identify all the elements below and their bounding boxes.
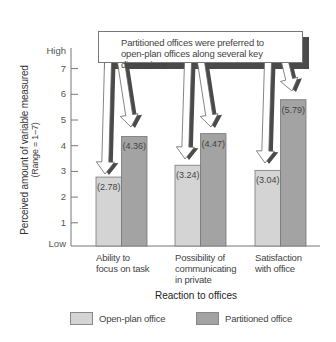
y-tick-label: 2 — [36, 191, 66, 202]
y-tick-label: 3 — [36, 165, 66, 176]
legend-item-open-plan: Open-plan office — [70, 312, 165, 325]
x-category-label: Satisfaction with office — [255, 252, 302, 274]
y-tick-label: Low — [36, 238, 66, 249]
bar-partitioned — [281, 100, 307, 246]
bar-partitioned — [201, 134, 227, 246]
legend-label-partitioned: Partitioned office — [225, 313, 292, 324]
bar-partitioned — [122, 136, 148, 246]
y-tick-label: 5 — [36, 114, 66, 125]
legend-label-open-plan: Open-plan office — [99, 313, 165, 324]
y-tick-label: 7 — [36, 63, 66, 74]
y-tick-label: 1 — [36, 217, 66, 228]
bar-value-label: (2.78) — [96, 182, 122, 192]
x-category-label: Possibility of communicating in private — [175, 252, 236, 285]
bar-value-label: (4.47) — [201, 139, 227, 149]
y-tick-label: 6 — [36, 88, 66, 99]
y-tick-label: 4 — [36, 140, 66, 151]
bar-chart: Partitioned offices were preferred to op… — [0, 0, 336, 342]
callout-line-1: Partitioned offices were preferred to — [121, 37, 302, 48]
callout-line-2: open-plan offices along several key dime… — [121, 48, 302, 70]
x-category-label: Ability to focus on task — [96, 252, 149, 274]
bar-value-label: (5.79) — [281, 105, 307, 115]
y-axis-label: Perceived amount of variable measured — [19, 65, 30, 234]
y-tick-label: High — [36, 45, 66, 56]
legend-item-partitioned: Partitioned office — [196, 312, 292, 325]
x-axis-title: Reaction to offices — [0, 290, 336, 301]
bar-value-label: (3.24) — [175, 170, 201, 180]
legend-swatch-partitioned — [196, 312, 219, 325]
callout-box: Partitioned offices were preferred to op… — [98, 31, 303, 63]
bar-value-label: (4.36) — [122, 141, 148, 151]
bar-value-label: (3.04) — [255, 175, 281, 185]
legend-swatch-open-plan — [70, 312, 93, 325]
